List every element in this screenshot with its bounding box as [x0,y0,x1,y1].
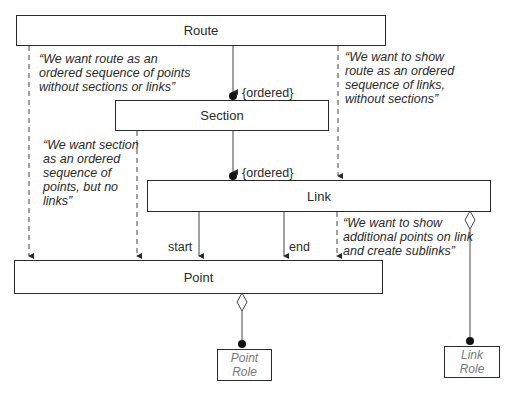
class-link-label: Link [307,189,331,204]
multiplicity-dot-icon [238,340,246,348]
multiplicity-dot-icon [466,337,474,345]
aggregation-diamond-icon [237,293,247,311]
note-link-points: “We want to show additional points on li… [343,216,473,258]
class-point: Point [14,260,383,294]
point-role-line2: Role [232,365,257,379]
role-label-start: start [168,240,192,254]
class-point-label: Point [184,270,214,285]
class-route: Route [16,15,386,46]
class-link-role: Link Role [444,346,500,378]
constraint-ordered-link: {ordered} [242,166,293,180]
multiplicity-dot-icon [229,92,237,100]
link-role-line1: Link [461,348,483,362]
note-section-points: “We want section as an ordered sequence … [43,138,139,208]
class-section-label: Section [200,108,243,123]
constraint-ordered-section: {ordered} [242,86,293,100]
class-section: Section [115,100,329,131]
role-label-end: end [289,240,310,254]
note-route-points: “We want route as an ordered sequence of… [39,52,191,94]
note-route-links: “We want to show route as an ordered seq… [345,50,454,106]
class-point-role: Point Role [217,349,272,381]
multiplicity-dot-icon [229,172,237,180]
link-role-line2: Role [460,362,485,376]
class-route-label: Route [184,23,219,38]
point-role-line1: Point [231,351,258,365]
class-link: Link [147,180,491,212]
